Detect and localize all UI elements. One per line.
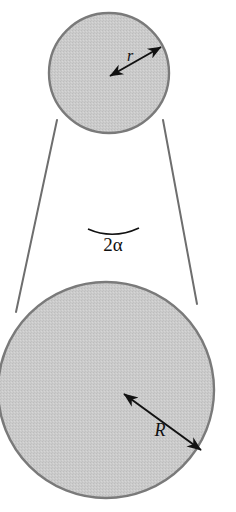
small-circle-group — [49, 13, 169, 133]
tangent-line-right-upper — [163, 120, 197, 304]
tangent-line-left-upper — [16, 120, 57, 312]
large-circle-group — [0, 282, 214, 498]
figure-canvas: r 2α R — [0, 0, 236, 512]
large-circle — [0, 282, 214, 498]
apex-angle-group: 2α — [88, 228, 139, 255]
small-radius-label: r — [127, 47, 134, 64]
large-radius-label: R — [154, 420, 166, 440]
geometry-diagram: r 2α R — [0, 0, 236, 512]
apex-angle-label: 2α — [103, 234, 123, 255]
small-circle — [49, 13, 169, 133]
